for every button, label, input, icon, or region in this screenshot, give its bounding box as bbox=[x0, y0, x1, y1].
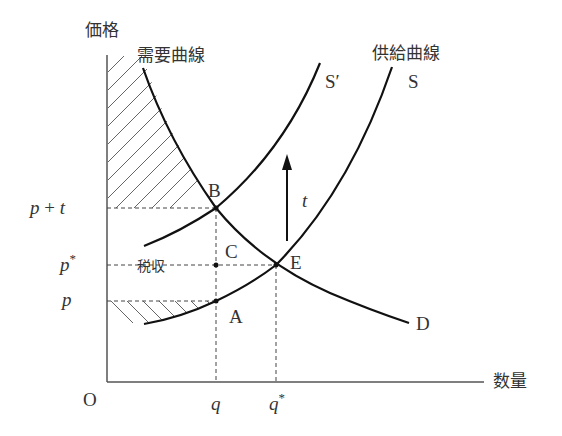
point-e-dot bbox=[274, 263, 279, 268]
demand-curve-title: 需要曲線 bbox=[137, 45, 205, 65]
y-axis-label: 価格 bbox=[85, 20, 119, 40]
tax-incidence-diagram: 価格 数量 O 需要曲線 供給曲線 S′ S D B C E A p + t p… bbox=[0, 0, 562, 436]
supply-label: S bbox=[408, 71, 419, 92]
point-b-label: B bbox=[208, 180, 221, 201]
price-p-star-label: p* bbox=[58, 251, 76, 275]
origin-label: O bbox=[83, 389, 97, 410]
tax-arrow-label: t bbox=[302, 190, 308, 211]
consumer-surplus-hatch bbox=[80, 0, 400, 298]
guide-lines bbox=[107, 208, 276, 382]
tax-arrow-head-icon bbox=[282, 154, 292, 170]
x-axis-label: 数量 bbox=[493, 371, 527, 391]
price-p-plus-t-label: p + t bbox=[28, 197, 66, 218]
demand-label: D bbox=[416, 313, 430, 334]
point-b-dot bbox=[214, 206, 219, 211]
quantity-q-star-label: q* bbox=[269, 390, 285, 414]
point-e-label: E bbox=[290, 252, 302, 273]
point-c-label: C bbox=[225, 241, 238, 262]
price-p-label: p bbox=[60, 289, 72, 310]
point-c-dot bbox=[214, 263, 219, 268]
quantity-q-label: q bbox=[211, 393, 221, 414]
shifted-supply-label: S′ bbox=[325, 71, 340, 92]
tax-revenue-label: 税収 bbox=[137, 258, 165, 274]
shifted-supply-curve bbox=[144, 63, 320, 246]
point-a-dot bbox=[214, 299, 219, 304]
point-a-label: A bbox=[229, 306, 243, 327]
supply-curve-title: 供給曲線 bbox=[372, 43, 440, 63]
supply-curve bbox=[144, 67, 392, 324]
